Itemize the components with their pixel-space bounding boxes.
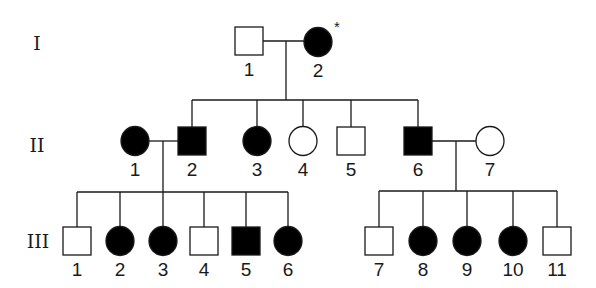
individual-number: 1	[130, 159, 141, 180]
individual-number: 1	[72, 259, 83, 280]
individual-III-3: 3	[149, 227, 177, 281]
affected-male-square-icon	[404, 127, 432, 155]
individual-III-9: 9	[453, 227, 481, 281]
unaffected-male-square-icon	[543, 227, 571, 255]
generation-label-II: II	[29, 134, 44, 156]
affected-female-circle-icon	[243, 127, 271, 156]
individual-number: 4	[298, 159, 309, 180]
individuals: 12*12345671234567891011	[63, 18, 571, 280]
individual-number: 5	[241, 259, 252, 280]
affected-male-square-icon	[178, 127, 206, 155]
individual-number: 10	[502, 259, 523, 280]
individual-II-6: 6	[404, 127, 432, 180]
pedigree-diagram: IIIIII 12*12345671234567891011	[0, 0, 596, 288]
unaffected-male-square-icon	[190, 227, 218, 255]
individual-number: 7	[485, 159, 496, 180]
unaffected-male-square-icon	[337, 127, 365, 155]
individual-II-5: 5	[337, 127, 365, 180]
affected-female-circle-icon	[106, 227, 134, 256]
individual-III-8: 8	[409, 227, 437, 281]
individual-number: 1	[244, 59, 255, 80]
unaffected-male-square-icon	[63, 227, 91, 255]
individual-number: 3	[158, 259, 169, 280]
individual-II-3: 3	[243, 127, 271, 181]
affected-female-circle-icon	[121, 127, 149, 156]
individual-III-7: 7	[365, 227, 393, 280]
individual-III-5: 5	[232, 227, 260, 280]
individual-II-1: 1	[121, 127, 149, 181]
unaffected-female-circle-icon	[476, 127, 504, 156]
individual-I-2: 2*	[304, 18, 340, 81]
individual-number: 6	[283, 259, 294, 280]
affected-male-square-icon	[232, 227, 260, 255]
individual-II-4: 4	[289, 127, 317, 181]
mating-I-1-I-2	[192, 41, 418, 127]
affected-female-circle-icon	[274, 227, 302, 256]
pedigree-canvas: IIIIII 12*12345671234567891011	[0, 0, 596, 288]
unaffected-male-square-icon	[365, 227, 393, 255]
affected-female-circle-icon	[149, 227, 177, 256]
individual-II-7: 7	[476, 127, 504, 181]
individual-number: 9	[462, 259, 473, 280]
affected-female-circle-icon	[499, 227, 527, 256]
generation-label-III: III	[27, 230, 50, 252]
individual-III-11: 11	[543, 227, 571, 280]
affected-female-circle-icon	[304, 28, 332, 57]
individual-III-6: 6	[274, 227, 302, 281]
affected-female-circle-icon	[453, 227, 481, 256]
generation-label-I: I	[33, 32, 41, 54]
individual-I-1: 1	[235, 27, 263, 80]
individual-number: 7	[374, 259, 385, 280]
individual-II-2: 2	[178, 127, 206, 180]
individual-number: 5	[346, 159, 357, 180]
proband-asterisk-icon: *	[334, 18, 340, 35]
individual-III-4: 4	[190, 227, 218, 280]
individual-number: 8	[418, 259, 429, 280]
individual-number: 4	[199, 259, 210, 280]
individual-number: 6	[413, 159, 424, 180]
generation-labels: IIIIII	[27, 32, 50, 252]
individual-III-2: 2	[106, 227, 134, 281]
individual-number: 2	[313, 60, 324, 81]
unaffected-female-circle-icon	[289, 127, 317, 156]
individual-number: 11	[547, 259, 567, 280]
unaffected-male-square-icon	[235, 27, 263, 55]
affected-female-circle-icon	[409, 227, 437, 256]
individual-III-10: 10	[499, 227, 527, 281]
individual-number: 2	[187, 159, 198, 180]
individual-III-1: 1	[63, 227, 91, 280]
individual-number: 2	[115, 259, 126, 280]
individual-number: 3	[252, 159, 263, 180]
